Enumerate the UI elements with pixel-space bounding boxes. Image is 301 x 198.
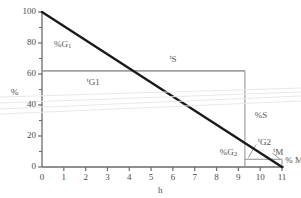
annotation-t-G1: tG1: [87, 77, 100, 87]
x-tick-label-7: 7: [185, 173, 205, 182]
x-tick-label-5: 5: [141, 173, 161, 182]
chart-canvas: [0, 0, 301, 198]
x-tick-label-2: 2: [76, 173, 96, 182]
x-tick-label-11: 11: [272, 173, 292, 182]
y-tick-label-0: 0: [6, 162, 36, 171]
annotation-pct-G1: %G1: [54, 40, 72, 50]
annotation-pct-S: %S: [255, 111, 268, 120]
y-tick-label-80: 80: [6, 38, 36, 47]
annotation-t-M: tM: [273, 147, 283, 157]
chart-figure: 02040608010001234567891011%h%G1tG1tS%S%G…: [0, 0, 301, 198]
x-tick-label-1: 1: [54, 173, 74, 182]
annotation-pct-M: % M: [285, 156, 301, 165]
x-tick-label-4: 4: [119, 173, 139, 182]
x-tick-label-10: 10: [250, 173, 270, 182]
y-tick-label-60: 60: [6, 69, 36, 78]
annotation-t-G2: tG2: [258, 137, 271, 147]
x-tick-label-3: 3: [97, 173, 117, 182]
x-tick-label-9: 9: [228, 173, 248, 182]
y-tick-label-100: 100: [6, 7, 36, 16]
x-axis-title: h: [158, 186, 163, 195]
axes-layer: [38, 11, 284, 171]
annotation-t-S: tS: [170, 54, 177, 64]
series-main-decline: [42, 12, 282, 167]
reference-lines-layer: [42, 71, 282, 167]
data-series-layer: [42, 12, 282, 167]
x-tick-label-0: 0: [32, 173, 52, 182]
y-tick-label-40: 40: [6, 100, 36, 109]
y-tick-label-20: 20: [6, 131, 36, 140]
x-tick-label-6: 6: [163, 173, 183, 182]
x-tick-label-8: 8: [207, 173, 227, 182]
y-axis-title: %: [11, 88, 19, 97]
annotation-pct-G2: %G2: [220, 148, 238, 158]
